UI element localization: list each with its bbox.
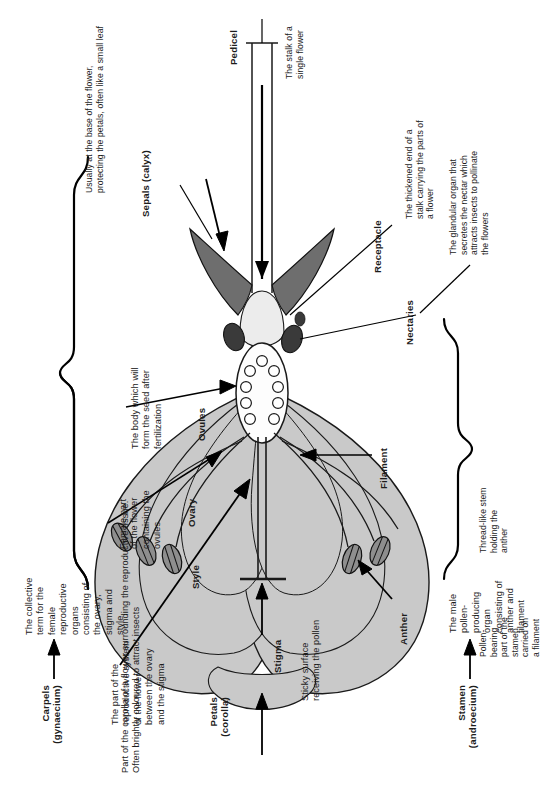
label-ovules-title: Ovules — [196, 408, 207, 441]
label-carpels-desc: The collective term for the female repro… — [24, 543, 127, 635]
label-nectaries-title: Nectaries — [404, 300, 415, 345]
label-ovary-title: Ovary — [186, 499, 197, 527]
label-sepals-title: Sepals (calyx) — [140, 150, 151, 217]
label-stigma-desc: Sticky surface receiving the pollen — [300, 571, 323, 701]
label-pedicel-desc: The stalk of a single flower — [284, 0, 305, 79]
label-stamen-desc: The male pollen- producing organ consist… — [448, 553, 528, 633]
stamen-brace — [444, 319, 472, 579]
label-ovules-desc: The body which will form the seed after … — [130, 313, 164, 449]
label-nectaries-desc: The glandular organ that secretes the ne… — [448, 75, 490, 255]
label-pedicel-title: Pedicel — [228, 30, 239, 65]
pedicel-shape — [246, 43, 278, 293]
label-stigma-title: Stigma — [272, 640, 283, 673]
label-stamen-title: Stamen (androecium) — [456, 685, 479, 761]
label-filament-title: Filament — [378, 448, 389, 489]
label-receptacle-title: Receptacle — [372, 220, 383, 273]
label-petals-title: Petals (corolla) — [208, 697, 231, 767]
ovary-shape — [236, 343, 288, 443]
label-sepals-desc: Usually at the base of the flower, prote… — [84, 0, 105, 193]
label-anther-title: Anther — [398, 613, 409, 645]
label-receptacle-desc: The thickened end of a stalk carrying th… — [404, 59, 436, 219]
label-carpels-title: Carpels (gynaecium) — [40, 685, 63, 757]
label-ovary-desc: Female part of the flower containing the… — [118, 451, 164, 549]
label-filament-desc: Thread-like stem holding the anther — [478, 443, 510, 553]
label-style-title: Style — [190, 565, 201, 589]
carpels-brace-full — [60, 157, 88, 589]
